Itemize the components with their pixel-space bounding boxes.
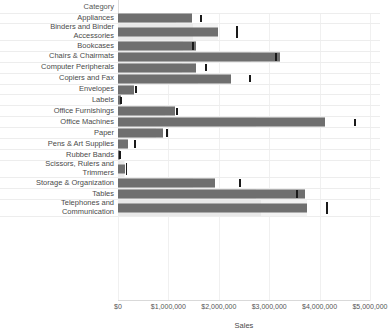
sales-bar[interactable] (118, 129, 163, 138)
x-axis-ticks: $0$1,000,000$2,000,000$3,000,000$4,000,0… (0, 303, 380, 315)
sales-bar[interactable] (118, 164, 125, 173)
row-plot-area (118, 106, 370, 116)
row-plot-area (118, 74, 370, 84)
reference-line-marker (326, 202, 328, 214)
category-label[interactable]: Envelopes (0, 85, 118, 95)
reference-line-marker (135, 86, 137, 94)
x-tick-label: $2,000,000 (201, 303, 236, 310)
row-plot-area (118, 178, 370, 188)
table-row[interactable]: Labels (0, 95, 380, 106)
category-label[interactable]: Computer Peripherals (0, 63, 118, 73)
row-plot-area (118, 24, 370, 40)
sales-bar[interactable] (118, 85, 134, 94)
table-row[interactable]: Tables (0, 189, 380, 200)
row-plot-area (118, 161, 370, 177)
row-plot-area (118, 189, 370, 199)
table-row[interactable]: Computer Peripherals (0, 63, 380, 74)
category-label[interactable]: Paper (0, 128, 118, 138)
reference-line-marker (200, 15, 202, 22)
table-row[interactable]: Paper (0, 128, 380, 139)
sales-bar[interactable] (118, 74, 231, 83)
reference-line-marker (249, 75, 251, 83)
reference-line-marker (166, 129, 168, 137)
reference-line-marker (354, 119, 356, 127)
sales-bar[interactable] (118, 118, 325, 127)
category-label[interactable]: Binders and Binder Accessories (0, 24, 118, 40)
reference-line-marker (192, 42, 194, 50)
reference-line-marker (205, 64, 207, 72)
sales-bar[interactable] (118, 41, 196, 50)
category-label[interactable]: Scissors, Rulers and Trimmers (0, 161, 118, 177)
table-row[interactable]: Chairs & Chairmats (0, 52, 380, 63)
category-field-header: Category (0, 0, 118, 13)
x-tick-label: $4,000,000 (302, 303, 337, 310)
sales-bar[interactable] (118, 107, 175, 116)
reference-line-marker (296, 190, 298, 198)
table-row[interactable]: Envelopes (0, 85, 380, 96)
row-plot-area (118, 150, 370, 160)
table-row[interactable]: Storage & Organization (0, 178, 380, 189)
chart-rows: AppliancesBinders and Binder Accessories… (0, 13, 380, 301)
row-plot-area (118, 95, 370, 105)
reference-line-marker (126, 163, 128, 175)
category-label[interactable]: Copiers and Fax (0, 74, 118, 84)
x-axis-title: Sales (118, 321, 370, 330)
x-tick-label: $1,000,000 (151, 303, 186, 310)
category-label[interactable]: Bookcases (0, 41, 118, 51)
table-row[interactable]: Pens & Art Supplies (0, 139, 380, 150)
row-plot-area (118, 128, 370, 138)
sales-bar[interactable] (118, 27, 218, 36)
row-plot-area (118, 85, 370, 95)
table-row[interactable]: Office Machines (0, 117, 380, 128)
sales-bar[interactable] (118, 189, 305, 198)
sales-bar[interactable] (118, 140, 128, 149)
reference-line-marker (176, 108, 178, 116)
reference-line-marker (134, 140, 136, 148)
x-tick-label: $3,000,000 (252, 303, 287, 310)
reference-line-marker (120, 97, 122, 105)
table-row[interactable]: Telephones and Communication (0, 200, 380, 217)
category-label[interactable]: Labels (0, 95, 118, 105)
x-tick-label: $0 (114, 303, 122, 310)
row-plot-area (118, 41, 370, 51)
sales-bar[interactable] (118, 203, 307, 212)
table-row[interactable]: Binders and Binder Accessories (0, 24, 380, 41)
category-label[interactable]: Telephones and Communication (0, 200, 118, 216)
row-plot-area (118, 52, 370, 62)
category-label[interactable]: Office Machines (0, 117, 118, 127)
table-row[interactable]: Office Furnishings (0, 106, 380, 117)
reference-line-marker (275, 53, 277, 61)
x-tick-label: $5,000,000 (352, 303, 387, 310)
row-plot-area (118, 117, 370, 127)
category-label[interactable]: Office Furnishings (0, 106, 118, 116)
table-row[interactable]: Copiers and Fax (0, 74, 380, 85)
category-label[interactable]: Chairs & Chairmats (0, 52, 118, 62)
sales-bar[interactable] (118, 178, 215, 187)
row-plot-area (118, 63, 370, 73)
x-axis-line (118, 300, 370, 301)
sales-bar[interactable] (118, 63, 196, 72)
sales-bar[interactable] (118, 14, 192, 23)
row-plot-area (118, 14, 370, 23)
table-row[interactable]: Scissors, Rulers and Trimmers (0, 161, 380, 178)
row-plot-area (118, 139, 370, 149)
category-label[interactable]: Pens & Art Supplies (0, 139, 118, 149)
sales-bar[interactable] (118, 52, 280, 61)
reference-line-marker (236, 26, 238, 38)
category-label[interactable]: Storage & Organization (0, 178, 118, 188)
table-row[interactable]: Bookcases (0, 41, 380, 52)
row-plot-area (118, 200, 370, 216)
reference-line-marker (119, 151, 121, 159)
reference-line-marker (239, 179, 241, 187)
